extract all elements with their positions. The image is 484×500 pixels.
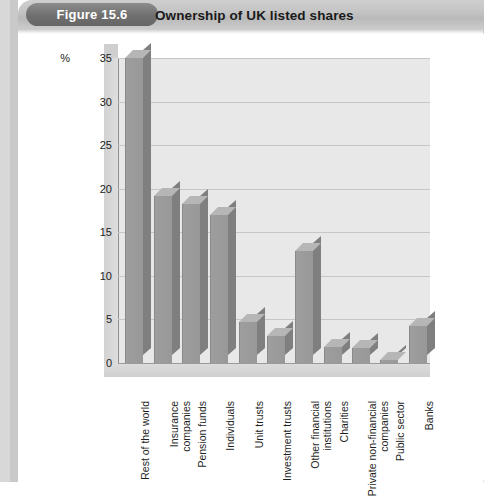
bar-front-face <box>154 196 172 363</box>
chart-area: 05101520253035% Rest of the worldInsuran… <box>18 34 484 480</box>
chart-floor <box>104 363 430 377</box>
bar <box>239 322 257 363</box>
gridline <box>118 58 430 59</box>
bar-front-face <box>182 204 200 363</box>
x-axis-labels: Rest of the worldInsurance companiesPens… <box>118 397 444 500</box>
figure-number-badge: Figure 15.6 <box>26 3 158 26</box>
bar <box>125 58 143 363</box>
gridline <box>118 145 430 146</box>
bar-front-face <box>409 326 427 363</box>
x-tick-label: Public sector <box>395 401 407 500</box>
bar <box>352 348 370 363</box>
bar <box>154 196 172 363</box>
gridline <box>118 102 430 103</box>
bar-front-face <box>380 360 398 363</box>
bar <box>267 336 285 363</box>
y-tick-label: 10 <box>72 270 112 282</box>
x-tick-label: Other financial institutions <box>310 401 333 500</box>
bar-side-face <box>200 189 208 355</box>
bar <box>295 251 313 363</box>
y-tick-label: 20 <box>72 183 112 195</box>
bar-front-face <box>295 251 313 363</box>
bar <box>182 204 200 363</box>
bar-side-face <box>228 200 236 355</box>
y-axis-unit-label: % <box>60 52 70 64</box>
figure-header: Figure 15.6 Ownership of UK listed share… <box>18 0 484 30</box>
bar-front-face <box>125 58 143 363</box>
bar <box>210 215 228 363</box>
x-tick-label: Investment trusts <box>282 401 294 500</box>
x-tick-label: Insurance companies <box>169 401 192 500</box>
plot-region: 05101520253035% <box>118 58 430 363</box>
bar-front-face <box>324 347 342 363</box>
y-axis-line <box>118 58 119 363</box>
x-tick-label: Rest of the world <box>140 401 152 500</box>
x-tick-label: Private non-financial companies <box>367 401 390 500</box>
x-tick-label: Charities <box>339 401 351 500</box>
x-tick-label: Individuals <box>225 401 237 500</box>
y-tick-label: 15 <box>72 226 112 238</box>
page-gutter-shade <box>10 0 18 482</box>
y-tick-label: 0 <box>72 357 112 369</box>
page-gutter <box>0 0 18 482</box>
x-tick-label: Pension funds <box>197 401 209 500</box>
y-tick-label: 30 <box>72 96 112 108</box>
bar <box>324 347 342 363</box>
figure-title: Ownership of UK listed shares <box>155 0 354 30</box>
y-tick-label: 25 <box>72 139 112 151</box>
bar-front-face <box>267 336 285 363</box>
x-tick-label: Banks <box>424 401 436 500</box>
bar-front-face <box>352 348 370 363</box>
y-tick-label: 5 <box>72 313 112 325</box>
x-tick-label: Unit trusts <box>254 401 266 500</box>
bar-front-face <box>210 215 228 363</box>
bar-side-face <box>143 43 151 355</box>
bar-side-face <box>313 237 321 355</box>
bar <box>380 360 398 363</box>
chart-baseline <box>118 363 430 364</box>
bar-side-face <box>172 181 180 355</box>
bar-front-face <box>239 322 257 363</box>
figure-panel: Figure 15.6 Ownership of UK listed share… <box>18 0 484 482</box>
bar <box>409 326 427 363</box>
y-tick-label: 35 <box>72 52 112 64</box>
